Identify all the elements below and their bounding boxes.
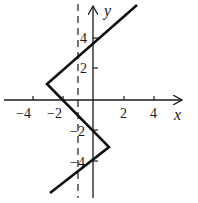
x-axis-label: x <box>173 106 181 123</box>
coordinate-plane: −4 −2 2 4 4 2 −2 −4 x y <box>0 0 198 203</box>
y-axis-label: y <box>102 2 112 20</box>
y-tick-label: 2 <box>80 61 87 76</box>
x-tick-label: −2 <box>47 106 62 121</box>
x-tick-label: 2 <box>120 106 127 121</box>
x-tick-label: −4 <box>16 106 31 121</box>
y-tick-label: −2 <box>70 124 85 139</box>
y-tick-label: 4 <box>80 31 87 46</box>
x-tick-label: 4 <box>150 106 157 121</box>
